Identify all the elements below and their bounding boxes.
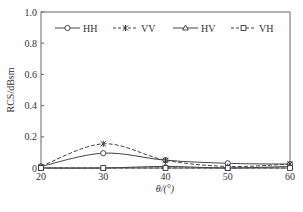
legend-label: HV: [201, 23, 216, 34]
legend-label: VV: [141, 23, 156, 34]
y-tick-label: 0.4: [25, 100, 38, 111]
x-tick-label: 20: [36, 171, 46, 182]
y-tick-label: 0.8: [25, 38, 38, 49]
x-tick-label: 50: [223, 171, 233, 182]
x-axis-label: θ/(°): [156, 183, 175, 195]
y-tick-label: 0.2: [25, 131, 38, 142]
legend-item-vv: VV: [113, 23, 156, 34]
legend: HHVVHVVH: [55, 23, 273, 34]
legend-item-hv: HV: [173, 23, 216, 34]
data-series: [38, 141, 293, 171]
y-tick-label: 1.0: [25, 7, 38, 18]
line-chart: 00.20.40.60.81.0 2030405060 RCS/dBsm θ/(…: [0, 0, 303, 212]
plot-frame: [41, 12, 290, 168]
legend-label: HH: [83, 23, 97, 34]
legend-label: VH: [259, 23, 273, 34]
y-tick-label: 0.6: [25, 69, 38, 80]
legend-item-vh: VH: [231, 23, 273, 34]
x-tick-label: 40: [161, 171, 171, 182]
x-tick-label: 30: [98, 171, 108, 182]
y-axis-label: RCS/dBsm: [5, 67, 16, 112]
x-tick-label: 60: [285, 171, 295, 182]
legend-item-hh: HH: [55, 23, 97, 34]
